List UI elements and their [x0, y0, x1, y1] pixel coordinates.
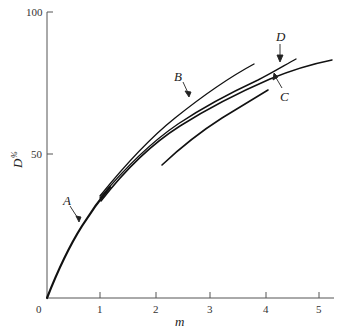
- svg-text:%: %: [10, 151, 19, 158]
- origin-label: 0: [36, 303, 42, 315]
- x-tick-label-1: 1: [97, 303, 103, 315]
- y-tick-label-50: 50: [31, 148, 43, 160]
- svg-text:D: D: [10, 158, 25, 169]
- x-tick-label-2: 2: [153, 303, 159, 315]
- x-tick-label-3: 3: [207, 303, 213, 315]
- arrow-C-head: [273, 73, 278, 80]
- x-axis-title: m: [175, 314, 184, 329]
- label-C: C: [280, 89, 289, 104]
- label-B: B: [174, 69, 182, 84]
- curve-A: [47, 187, 110, 298]
- label-A: A: [62, 193, 71, 208]
- arrow-D-head: [277, 55, 283, 62]
- x-tick-label-4: 4: [263, 303, 269, 315]
- arrow-A-head: [76, 216, 81, 222]
- curve-C: [101, 60, 332, 201]
- arrow-B-head: [185, 91, 191, 97]
- label-D: D: [275, 29, 286, 44]
- chart: 100 50 0 1 2 3 4 5 m D % A B D C: [0, 0, 344, 333]
- y-tick-label-100: 100: [26, 6, 43, 18]
- axes: [47, 12, 334, 298]
- x-tick-label-5: 5: [316, 303, 322, 315]
- y-axis-title: D %: [10, 151, 25, 169]
